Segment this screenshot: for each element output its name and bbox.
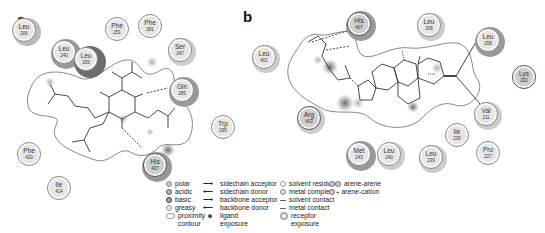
receptor-exposure-icon [280, 212, 288, 220]
residue-name: Ser [175, 44, 185, 51]
residue-number: 281 [146, 28, 154, 33]
legend-label: arene-cation [342, 188, 380, 196]
residue-name: Leu [424, 19, 435, 26]
residue-gln-285-a: Gln285 [170, 78, 194, 102]
residue-number: 251 [113, 31, 121, 36]
legend-label: backbone acceptor [220, 196, 277, 204]
polar-swatch-icon [166, 181, 172, 187]
panel-a-ligand [48, 62, 175, 152]
arene-cation-icon [329, 189, 335, 195]
residue-leu-401-b: Leu401 [252, 45, 276, 69]
residue-name: Leu [426, 151, 437, 158]
residue-number: 403 [305, 120, 313, 125]
legend-label: solvent contact [289, 196, 334, 204]
residue-number: 206 [425, 27, 433, 32]
residue-number: 414 [55, 190, 63, 195]
residue-leu-208-b: Leu208 [476, 28, 500, 52]
residue-name: Phe [144, 20, 156, 27]
residue-number: 208 [484, 42, 492, 47]
residue-leu-209-a: Leu209 [74, 47, 98, 71]
residue-number: 236 [453, 137, 461, 142]
residue-name: Trp [218, 121, 228, 128]
metal-complex-icon [280, 189, 286, 195]
legend-pi: arene-arene +arene-cation [329, 180, 381, 196]
legend-label: contour [178, 220, 201, 228]
proximity-contour-icon [166, 213, 175, 219]
residue-number: 285 [178, 92, 186, 97]
residue-name: Leu [483, 34, 494, 41]
legend-label: backbone donor [220, 204, 269, 212]
residue-name: Leu [59, 46, 70, 53]
residue-phe-281-a: Phe281 [138, 14, 162, 38]
residue-phe-251-a: Phe251 [105, 17, 129, 41]
residue-number: 407 [355, 26, 363, 31]
residue-leu-240-a: Leu240 [52, 40, 76, 64]
sidechain-acceptor-arrow-icon: ⟶ [203, 180, 217, 188]
residue-number: 240 [60, 54, 68, 59]
residue-number: 202 [520, 79, 528, 84]
legend-label: receptor [291, 212, 316, 220]
legend-interactions: ⟶sidechain acceptor ⟵sidechain donor ⟶ba… [203, 180, 277, 228]
legend-label: acidic [175, 188, 192, 196]
residue-trp-295-a: Trp295 [211, 115, 235, 139]
residue-number: 243 [355, 156, 363, 161]
residue-leu-240-b: Leu240 [377, 142, 401, 166]
legend-residue-types: polar acidic basic greasy proximity cont… [166, 180, 205, 228]
residue-name: Arg [304, 112, 314, 119]
residue-name: Val [482, 108, 491, 115]
residue-name: Met [354, 148, 365, 155]
legend-label: greasy [175, 204, 195, 212]
legend-solvent: solvent residue metal complex solvent co… [280, 180, 335, 228]
legend-label: exposure [291, 220, 319, 228]
greasy-swatch-icon [166, 205, 172, 211]
legend-label: exposure [220, 220, 248, 228]
residue-number: 209 [82, 61, 90, 66]
residue-pro-227-b: Pro227 [476, 141, 500, 165]
residue-name: Leu [384, 148, 395, 155]
residue-ser-247-a: Ser247 [168, 38, 192, 62]
residue-name: Ile [56, 182, 63, 189]
basic-swatch-icon [166, 197, 172, 203]
residue-met-243-b: Met243 [347, 142, 371, 166]
residue-name: Leu [81, 53, 92, 60]
residue-lys-202-b: Lys202 [512, 65, 536, 89]
metal-contact-line-icon [280, 208, 286, 209]
residue-number: 295 [219, 129, 227, 134]
residue-his-407-a: His407 [143, 153, 167, 177]
solvent-residue-icon [280, 181, 286, 187]
residue-leu-206-a: Leu206 [12, 18, 36, 42]
legend-label: arene-arene [344, 180, 381, 188]
legend-label: basic [175, 196, 191, 204]
residue-leu-206-b: Leu206 [417, 13, 441, 37]
residue-name: Pro [483, 147, 493, 154]
residue-number: 420 [25, 156, 33, 161]
residue-leu-239-b: Leu239 [419, 145, 443, 169]
residue-number: 211 [482, 116, 489, 121]
legend-label: solvent residue [289, 180, 335, 188]
legend-label: polar [175, 180, 190, 188]
plus-icon: + [336, 188, 340, 196]
ligand-exposure-icon: ● [203, 212, 217, 220]
legend-label: proximity [178, 212, 205, 220]
residue-number: 240 [385, 156, 393, 161]
legend-label: sidechain acceptor [220, 180, 277, 188]
acidic-swatch-icon [166, 189, 172, 195]
residue-name: Leu [19, 24, 30, 31]
residue-name: His [354, 18, 363, 25]
residue-number: 227 [484, 155, 492, 160]
residue-phe-420-a: Phe420 [17, 142, 41, 166]
solvent-contact-line-icon [280, 200, 286, 201]
residue-number: 239 [427, 159, 435, 164]
residue-number: 247 [176, 52, 184, 57]
legend-label: ligand [220, 212, 238, 220]
residue-name: Gln [177, 84, 187, 91]
residue-name: Ile [454, 129, 461, 136]
residue-val-211-b: Val211 [474, 102, 498, 126]
residue-name: His [150, 159, 159, 166]
residue-ile-236-b: Ile236 [445, 123, 469, 147]
arene-arene-icon-2 [335, 181, 341, 187]
backbone-acceptor-arrow-icon: ⟶ [203, 196, 217, 204]
residue-number: 407 [151, 167, 159, 172]
residue-number: 206 [20, 32, 28, 37]
residue-his-407-b: His407 [347, 12, 371, 36]
